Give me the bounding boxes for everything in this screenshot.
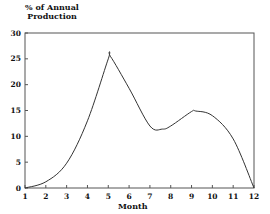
x-tick-label: 12 (249, 192, 259, 201)
x-tick-label: 8 (168, 192, 173, 201)
x-tick-label: 6 (126, 192, 131, 201)
x-tick-label: 9 (189, 192, 194, 201)
x-tick-label: 11 (228, 192, 238, 201)
x-tick-label: 5 (106, 192, 111, 201)
y-tick-label: 0 (16, 184, 21, 193)
y-tick-label: 20 (11, 80, 21, 89)
x-tick-label: 3 (64, 192, 69, 201)
y-tick-label: 30 (11, 29, 21, 38)
plot-frame (25, 33, 254, 188)
y-tick-label: 25 (11, 54, 21, 63)
x-tick-label: 1 (22, 192, 27, 201)
series-line (25, 52, 254, 188)
x-tick-label: 2 (43, 192, 48, 201)
x-tick-label: 4 (85, 192, 90, 201)
x-tick-label: 7 (147, 192, 152, 201)
y-tick-label: 5 (16, 158, 21, 167)
y-tick-label: 10 (11, 132, 21, 141)
x-tick-label: 10 (207, 192, 217, 201)
line-chart: 051015202530123456789101112 (0, 0, 270, 214)
y-tick-label: 15 (11, 106, 21, 115)
